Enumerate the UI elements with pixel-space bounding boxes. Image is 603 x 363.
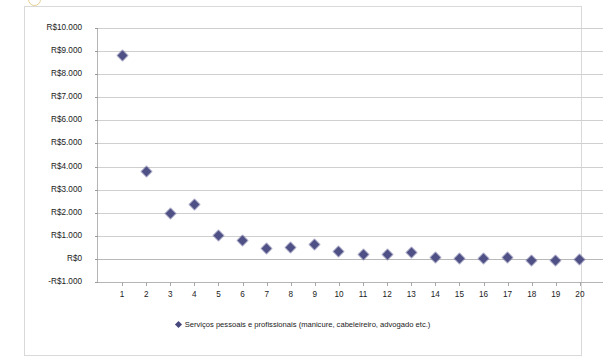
x-axis-tick-mark	[122, 282, 123, 286]
y-axis-tick-label: R$3.000	[0, 186, 82, 194]
gridline	[98, 143, 603, 144]
x-axis-tick-mark	[339, 282, 340, 286]
chart-legend: Serviços pessoais e profissionais (manic…	[25, 320, 581, 329]
y-axis-tick-mark	[95, 259, 98, 260]
y-axis-tick-mark	[95, 213, 98, 214]
gridline	[98, 97, 603, 98]
y-axis-tick-mark	[95, 28, 98, 29]
legend-marker-icon	[175, 321, 182, 328]
x-axis-tick-mark	[580, 282, 581, 286]
y-axis-tick-label: R$6.000	[0, 116, 82, 124]
y-axis-tick-label: R$9.000	[0, 47, 82, 55]
chart-frame: R$10.000R$9.000R$8.000R$7.000R$6.000R$5.…	[24, 6, 582, 356]
y-axis-tick-mark	[95, 190, 98, 191]
x-axis-tick-mark	[532, 282, 533, 286]
data-point-marker	[454, 253, 464, 263]
y-axis-tick-mark	[95, 97, 98, 98]
y-axis-tick-mark	[95, 143, 98, 144]
data-point-marker	[238, 235, 248, 245]
data-point-marker	[479, 253, 489, 263]
x-axis-tick-mark	[146, 282, 147, 286]
data-point-marker	[575, 255, 585, 265]
x-axis-tick-mark	[363, 282, 364, 286]
x-axis-tick-mark	[459, 282, 460, 286]
x-axis-tick-mark	[508, 282, 509, 286]
x-axis-tick-mark	[170, 282, 171, 286]
x-axis-tick-mark	[435, 282, 436, 286]
x-axis-line	[98, 282, 603, 283]
y-axis-tick-mark	[95, 51, 98, 52]
y-axis-tick-mark	[95, 120, 98, 121]
data-point-marker	[286, 242, 296, 252]
y-axis-tick-label: R$8.000	[0, 70, 82, 78]
data-point-marker	[117, 51, 127, 61]
gridline	[98, 51, 603, 52]
data-point-marker	[527, 255, 537, 265]
x-axis-tick-label: 20	[565, 291, 595, 299]
gridline	[98, 28, 603, 29]
data-point-marker	[262, 244, 272, 254]
data-point-marker	[214, 231, 224, 241]
gridline	[98, 190, 603, 191]
y-axis-tick-mark	[95, 74, 98, 75]
y-axis-tick-label: R$0	[0, 255, 82, 263]
legend-label: Serviços pessoais e profissionais (manic…	[185, 320, 431, 329]
y-axis-tick-label: R$4.000	[0, 162, 82, 170]
x-axis-tick-mark	[243, 282, 244, 286]
x-axis-tick-mark	[194, 282, 195, 286]
y-axis-tick-label: R$5.000	[0, 139, 82, 147]
x-axis-tick-mark	[218, 282, 219, 286]
data-point-marker	[430, 252, 440, 262]
y-axis-tick-label: R$2.000	[0, 209, 82, 217]
x-axis-tick-mark	[267, 282, 268, 286]
data-point-marker	[551, 256, 561, 266]
x-axis-tick-mark	[387, 282, 388, 286]
y-axis-tick-label: R$1.000	[0, 232, 82, 240]
x-axis-tick-mark	[484, 282, 485, 286]
data-point-marker	[334, 247, 344, 257]
plot-area: R$10.000R$9.000R$8.000R$7.000R$6.000R$5.…	[97, 28, 603, 282]
y-axis-tick-label: -R$1.000	[0, 278, 82, 286]
data-point-marker	[189, 200, 199, 210]
y-axis-tick-label: R$7.000	[0, 93, 82, 101]
gridline	[98, 236, 603, 237]
x-axis-tick-mark	[315, 282, 316, 286]
gridline	[98, 167, 603, 168]
y-axis-tick-label: R$10.000	[0, 24, 82, 32]
x-axis-tick-mark	[291, 282, 292, 286]
x-axis-tick-mark	[556, 282, 557, 286]
data-point-marker	[165, 209, 175, 219]
data-point-marker	[358, 249, 368, 259]
y-axis-tick-mark	[95, 236, 98, 237]
gridline	[98, 120, 603, 121]
x-axis-tick-mark	[411, 282, 412, 286]
y-axis-tick-mark	[95, 167, 98, 168]
data-point-marker	[141, 166, 151, 176]
data-point-marker	[406, 247, 416, 257]
gridline	[98, 74, 603, 75]
data-point-marker	[310, 240, 320, 250]
data-point-marker	[503, 253, 513, 263]
